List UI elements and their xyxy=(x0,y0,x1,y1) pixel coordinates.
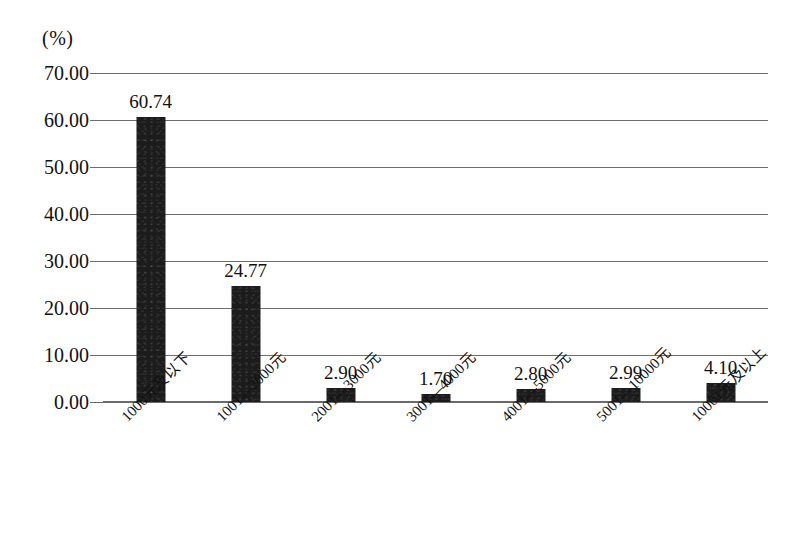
bar[interactable] xyxy=(136,117,165,402)
y-axis-tick-mark xyxy=(90,402,103,403)
y-axis-tick-label: 20.00 xyxy=(44,297,89,320)
bar-value-label: 60.74 xyxy=(129,92,172,111)
y-axis-tick-mark xyxy=(90,167,103,168)
y-axis-tick-label: 10.00 xyxy=(44,344,89,367)
bar-chart-figure: (%) 70.0060.0050.0040.0030.0020.0010.000… xyxy=(0,0,807,550)
y-axis-unit-label: (%) xyxy=(42,27,73,50)
bar-value-label: 24.77 xyxy=(224,261,267,280)
y-axis-tick-mark xyxy=(90,214,103,215)
y-axis-tick-label: 40.00 xyxy=(44,203,89,226)
y-axis-tick-label: 0.00 xyxy=(54,391,89,414)
y-axis-tick-label: 50.00 xyxy=(44,156,89,179)
y-axis-tick-mark xyxy=(90,355,103,356)
y-axis-tick-mark xyxy=(90,308,103,309)
y-axis-tick-mark xyxy=(90,73,103,74)
y-axis-tick-label: 70.00 xyxy=(44,62,89,85)
y-axis-tick-label: 30.00 xyxy=(44,250,89,273)
y-axis-tick-label: 60.00 xyxy=(44,109,89,132)
y-axis-tick-mark xyxy=(90,261,103,262)
y-axis-tick-mark xyxy=(90,120,103,121)
